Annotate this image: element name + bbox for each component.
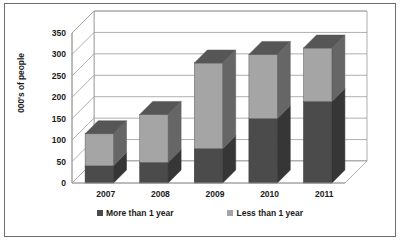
x-axis-tick-2011: 2011: [302, 189, 346, 199]
x-axis-tick-2007: 2007: [84, 189, 128, 199]
legend-item-less-than-1-year: Less than 1 year: [227, 208, 303, 218]
legend-label-less-than-1-year: Less than 1 year: [236, 208, 303, 218]
y-axis-tick-0: 0: [40, 178, 66, 188]
y-axis-tick-50: 50: [40, 157, 66, 167]
x-axis-tick-2010: 2010: [248, 189, 292, 199]
y-axis-tick-300: 300: [40, 49, 66, 59]
legend-label-more-than-1-year: More than 1 year: [106, 208, 174, 218]
legend-swatch-dark: [97, 210, 103, 216]
legend-item-more-than-1-year: More than 1 year: [97, 208, 174, 218]
chart-legend: More than 1 year Less than 1 year: [0, 208, 400, 218]
x-axis-tick-2008: 2008: [138, 189, 182, 199]
y-axis-tick-350: 350: [40, 28, 66, 38]
y-axis-tick-150: 150: [40, 114, 66, 124]
x-axis-tick-2009: 2009: [193, 189, 237, 199]
chart-container: 000's of people 050100150200250300350 20…: [0, 0, 400, 241]
y-axis-tick-100: 100: [40, 135, 66, 145]
y-axis-tick-250: 250: [40, 71, 66, 81]
y-axis-tick-200: 200: [40, 92, 66, 102]
legend-swatch-light: [227, 210, 233, 216]
